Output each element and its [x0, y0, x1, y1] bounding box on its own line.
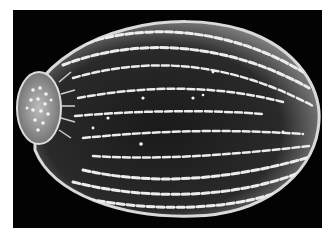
seed-body [35, 22, 319, 216]
micrograph-frame [13, 10, 322, 228]
seed-illustration [13, 10, 322, 228]
